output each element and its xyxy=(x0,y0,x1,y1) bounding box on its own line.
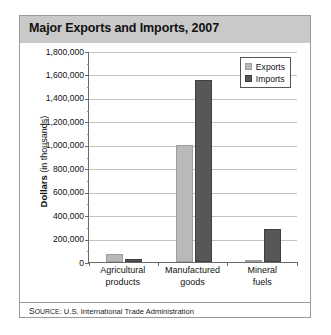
y-axis-tickmark xyxy=(85,169,89,170)
y-axis-tickmark xyxy=(85,52,89,53)
x-axis-category-label-line: fuels xyxy=(219,277,305,289)
y-axis-tickmark xyxy=(85,193,89,194)
legend-label-imports: Imports xyxy=(256,74,285,84)
x-axis-category-labels: AgriculturalproductsManufacturedgoodsMin… xyxy=(88,265,297,291)
y-axis-tick-label: 1,800,000 xyxy=(22,47,84,57)
y-axis-minor-tickmark xyxy=(87,228,90,229)
y-axis-minor-tickmark xyxy=(87,87,90,88)
y-axis-tick-label: 1,200,000 xyxy=(22,117,84,127)
bar-imports xyxy=(264,229,281,262)
gridline xyxy=(89,122,297,123)
y-axis-tick-label: 0 xyxy=(22,258,84,268)
source-note: SOURCE: U.S. International Trade Adminis… xyxy=(29,306,194,316)
bar-imports xyxy=(195,80,212,262)
x-axis-category-label: Mineralfuels xyxy=(219,265,305,288)
legend-label-exports: Exports xyxy=(256,62,285,72)
y-axis-tick-label: 200,000 xyxy=(22,234,84,244)
y-axis-tick-label: 800,000 xyxy=(22,164,84,174)
y-axis-minor-tickmark xyxy=(87,158,90,159)
y-axis-tick-labels: 1,800,0001,600,0001,400,0001,200,0001,00… xyxy=(20,16,84,317)
y-axis-tickmark xyxy=(85,99,89,100)
bar-exports xyxy=(176,145,193,262)
y-axis-tickmark xyxy=(85,122,89,123)
legend-item-imports: Imports xyxy=(245,73,285,84)
y-axis-tickmark xyxy=(85,216,89,217)
y-axis-tickmark xyxy=(85,146,89,147)
y-axis-tick-label: 1,600,000 xyxy=(22,70,84,80)
legend-swatch-exports-icon xyxy=(245,63,252,70)
bar-imports xyxy=(125,259,142,262)
bar-exports xyxy=(106,254,123,262)
bar-exports xyxy=(245,260,262,262)
source-text: : U.S. International Trade Administratio… xyxy=(60,307,194,316)
gridline xyxy=(89,193,297,194)
y-axis-minor-tickmark xyxy=(87,111,90,112)
gridline xyxy=(89,146,297,147)
chart-legend: Exports Imports xyxy=(240,57,291,88)
y-axis-tick-label: 1,400,000 xyxy=(22,93,84,103)
legend-swatch-imports-icon xyxy=(245,75,252,82)
y-axis-tickmark xyxy=(85,240,89,241)
legend-item-exports: Exports xyxy=(245,61,285,72)
x-axis-category-label-line: Mineral xyxy=(219,265,305,277)
y-axis-tick-label: 600,000 xyxy=(22,187,84,197)
gridline xyxy=(89,216,297,217)
y-axis-tick-label: 400,000 xyxy=(22,211,84,221)
gridline xyxy=(89,52,297,53)
y-axis-minor-tickmark xyxy=(87,181,90,182)
y-axis-minor-tickmark xyxy=(87,134,90,135)
gridline xyxy=(89,99,297,100)
plot-area: Exports Imports xyxy=(88,52,297,263)
chart-figure: Major Exports and Imports, 2007 Dollars … xyxy=(19,15,311,318)
source-divider xyxy=(20,302,310,303)
y-axis-minor-tickmark xyxy=(87,251,90,252)
source-prefix-small: OURCE xyxy=(35,308,60,315)
gridline xyxy=(89,169,297,170)
y-axis-tick-label: 1,000,000 xyxy=(22,140,84,150)
y-axis-minor-tickmark xyxy=(87,64,90,65)
y-axis-tickmark xyxy=(85,75,89,76)
y-axis-minor-tickmark xyxy=(87,204,90,205)
